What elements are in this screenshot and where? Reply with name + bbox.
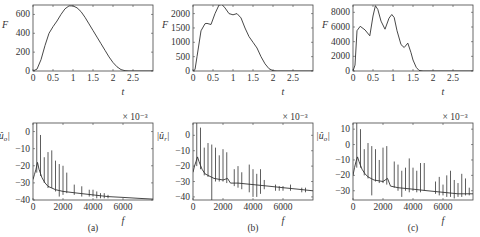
y-axis-label: |ûo| bbox=[316, 130, 330, 143]
y-tick-label: 0 bbox=[25, 127, 30, 137]
x-tick-label: 2 bbox=[431, 73, 436, 83]
y-tick-label: 6000 bbox=[331, 22, 350, 32]
data-line bbox=[353, 6, 473, 71]
panel-c-spectrum: 0200040006000100−10−20−30f|ûo|× 10⁻³ bbox=[316, 112, 473, 226]
panel-a-force-time: 00.511.522.50200400600tF bbox=[1, 5, 153, 97]
x-tick-label: 0.5 bbox=[367, 73, 379, 83]
caption-c: (c) bbox=[408, 223, 419, 234]
y-tick-label: −10 bbox=[175, 146, 190, 156]
x-tick-label: 6000 bbox=[274, 202, 293, 212]
y-axis-label: F bbox=[321, 19, 329, 30]
y-tick-label: −30 bbox=[335, 186, 350, 196]
x-tick-label: 0.5 bbox=[47, 73, 59, 83]
y-tick-label: −30 bbox=[15, 178, 30, 188]
y-tick-label: 0 bbox=[185, 66, 190, 76]
y-tick-label: 0 bbox=[25, 66, 30, 76]
data-line bbox=[193, 4, 313, 71]
caption-b: (b) bbox=[247, 223, 258, 234]
caption-a: (a) bbox=[88, 223, 99, 234]
y-axis-label: |ûo| bbox=[0, 130, 10, 143]
x-tick-label: 2 bbox=[271, 73, 276, 83]
plot-frame bbox=[193, 5, 313, 71]
x-tick-label: 1.5 bbox=[247, 73, 259, 83]
figure: 00.511.522.50200400600tF 00.511.522.5050… bbox=[0, 0, 480, 237]
x-tick-label: 2000 bbox=[54, 202, 73, 212]
x-tick-label: 0 bbox=[31, 202, 36, 212]
x-tick-label: 0 bbox=[191, 73, 196, 83]
x-tick-label: 0 bbox=[351, 202, 356, 212]
y-tick-label: 2000 bbox=[331, 51, 350, 61]
y-tick-label: 0 bbox=[345, 140, 350, 150]
y-tick-label: −10 bbox=[15, 144, 30, 154]
x-tick-label: 4000 bbox=[244, 202, 263, 212]
panel-a-spectrum: 02000400060000−10−20−30−40f|ûo|× 10⁻³ bbox=[0, 112, 153, 226]
x-tick-label: 0 bbox=[31, 73, 36, 83]
y-tick-label: 4000 bbox=[331, 37, 350, 47]
data-line bbox=[33, 6, 153, 71]
panel-b-force-time: 00.511.522.50500100015002000tF bbox=[161, 4, 313, 97]
y-tick-label: 200 bbox=[16, 47, 31, 57]
y-tick-label: −10 bbox=[335, 155, 350, 165]
x-tick-label: 1 bbox=[71, 73, 76, 83]
y-tick-label: 0 bbox=[345, 66, 350, 76]
x-tick-label: 0 bbox=[351, 73, 356, 83]
y-tick-label: 8000 bbox=[331, 7, 350, 17]
x-axis-label: f bbox=[442, 215, 446, 226]
scale-label: × 10⁻³ bbox=[122, 112, 147, 122]
x-tick-label: 2.5 bbox=[287, 73, 299, 83]
y-tick-label: 0 bbox=[185, 130, 190, 140]
x-axis-label: f bbox=[122, 215, 126, 226]
panel-b-spectrum: 02000400060000−10−20−30−40f|ûr|× 10⁻³ bbox=[156, 112, 313, 226]
x-axis-label: t bbox=[442, 86, 445, 97]
x-tick-label: 1.5 bbox=[407, 73, 419, 83]
x-tick-label: 1.5 bbox=[87, 73, 99, 83]
panel-c-force-time: 00.511.522.502000400060008000tF bbox=[321, 5, 473, 97]
x-axis-label: t bbox=[122, 86, 125, 97]
y-tick-label: −20 bbox=[175, 161, 190, 171]
y-axis-label: F bbox=[1, 19, 9, 30]
x-tick-label: 6000 bbox=[114, 202, 133, 212]
x-tick-label: 2 bbox=[111, 73, 116, 83]
y-tick-label: 10 bbox=[341, 124, 351, 134]
x-tick-label: 1 bbox=[231, 73, 236, 83]
y-tick-label: −30 bbox=[175, 177, 190, 187]
x-tick-label: 0.5 bbox=[207, 73, 219, 83]
y-tick-label: 1500 bbox=[171, 23, 190, 33]
x-tick-label: 1 bbox=[391, 73, 396, 83]
scale-label: × 10⁻³ bbox=[282, 112, 307, 122]
y-axis-label: |ûr| bbox=[156, 130, 169, 143]
plot-frame bbox=[33, 5, 153, 71]
y-axis-label: F bbox=[161, 19, 169, 30]
x-tick-label: 4000 bbox=[84, 202, 103, 212]
x-tick-label: 2.5 bbox=[127, 73, 139, 83]
y-tick-label: −20 bbox=[15, 161, 30, 171]
y-tick-label: 2000 bbox=[171, 9, 190, 19]
y-tick-label: 1000 bbox=[171, 37, 190, 47]
x-axis-label: f bbox=[282, 215, 286, 226]
y-tick-label: 400 bbox=[16, 28, 31, 38]
x-tick-label: 6000 bbox=[434, 202, 453, 212]
y-tick-label: −40 bbox=[175, 192, 190, 202]
x-tick-label: 2.5 bbox=[447, 73, 459, 83]
x-tick-label: 0 bbox=[191, 202, 196, 212]
x-axis-label: t bbox=[282, 86, 285, 97]
scale-label: × 10⁻³ bbox=[442, 112, 467, 122]
x-tick-label: 2000 bbox=[374, 202, 393, 212]
y-tick-label: −40 bbox=[15, 195, 30, 205]
y-tick-label: 600 bbox=[16, 9, 31, 19]
y-tick-label: −20 bbox=[335, 170, 350, 180]
x-tick-label: 2000 bbox=[214, 202, 233, 212]
x-tick-label: 4000 bbox=[404, 202, 423, 212]
y-tick-label: 500 bbox=[176, 52, 191, 62]
plot-frame bbox=[33, 123, 153, 200]
